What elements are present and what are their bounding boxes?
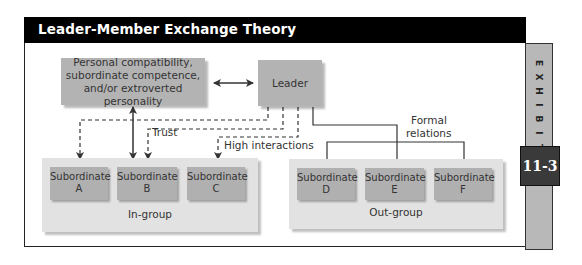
out-group-label: Out-group	[289, 206, 503, 218]
exhibit-letter: H	[532, 87, 546, 95]
subordinate-f-id: F	[434, 184, 492, 196]
out-group-container: Subordinate D Subordinate E Subordinate …	[289, 159, 503, 229]
exhibit-letter: I	[532, 103, 546, 106]
factors-line-2: subordinate competence,	[66, 69, 200, 82]
trust-label: Trust	[152, 126, 177, 138]
leader-label: Leader	[272, 77, 308, 90]
factors-line-3: and/or extroverted personality	[61, 82, 205, 108]
exhibit-number-badge: 11-3	[520, 146, 560, 186]
subordinate-d: Subordinate D	[297, 168, 355, 200]
subordinate-c: Subordinate C	[187, 167, 245, 200]
subordinate-c-title: Subordinate	[187, 171, 245, 183]
subordinate-c-id: C	[187, 183, 245, 195]
subordinate-f-title: Subordinate	[434, 172, 492, 184]
subordinate-b-title: Subordinate	[117, 171, 177, 183]
factors-line-1: Personal compatibility,	[73, 56, 193, 69]
subordinate-d-id: D	[297, 184, 355, 196]
in-group-container: Subordinate A Subordinate B Subordinate …	[42, 158, 258, 232]
subordinate-e: Subordinate E	[365, 168, 424, 200]
exhibit-number: 11-3	[522, 158, 557, 174]
relations-label: relations	[406, 127, 451, 139]
factors-box: Personal compatibility, subordinate comp…	[61, 58, 205, 105]
subordinate-b: Subordinate B	[117, 167, 177, 200]
high-interactions-label: High interactions	[224, 139, 314, 151]
subordinate-d-title: Subordinate	[297, 172, 355, 184]
subordinate-b-id: B	[117, 183, 177, 195]
formal-label: Formal	[411, 114, 447, 126]
in-group-label: In-group	[42, 208, 258, 220]
subordinate-a: Subordinate A	[50, 167, 108, 200]
subordinate-a-title: Subordinate	[50, 171, 108, 183]
exhibit-letter: I	[532, 131, 546, 134]
leader-box: Leader	[258, 60, 322, 106]
exhibit-letter: X	[532, 74, 546, 81]
subordinate-f: Subordinate F	[434, 168, 492, 200]
exhibit-letter: B	[532, 116, 546, 123]
subordinate-e-title: Subordinate	[365, 172, 424, 184]
leader-c-dashed	[218, 107, 298, 159]
subordinate-e-id: E	[365, 184, 424, 196]
subordinate-a-id: A	[50, 183, 108, 195]
exhibit-letter: E	[532, 60, 546, 66]
